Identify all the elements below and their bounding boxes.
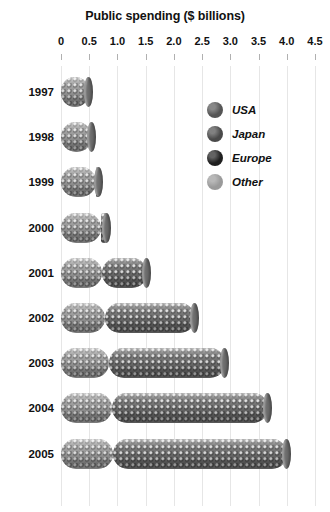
legend-swatch-usa-icon xyxy=(207,102,223,118)
bar-end-cap-2004 xyxy=(263,393,272,423)
bar-segment-1999-other xyxy=(61,167,96,197)
bar-2005 xyxy=(61,439,287,469)
bar-1997 xyxy=(61,77,89,107)
bar-segment-2003-usa xyxy=(109,348,225,378)
x-axis-tick-3.0 xyxy=(230,54,231,60)
bar-segment-2001-usa xyxy=(102,258,147,288)
legend-label-other: Other xyxy=(232,176,263,188)
y-axis-label-2002: 2002 xyxy=(0,312,54,324)
legend-swatch-other-icon xyxy=(207,174,223,190)
gridline-4.5 xyxy=(315,66,316,506)
chart-container: Public spending ($ billions) 00.51.01.52… xyxy=(0,0,330,512)
x-axis-label-4.5: 4.5 xyxy=(307,35,322,47)
x-axis-tick-0 xyxy=(61,54,62,60)
x-axis-label-0.5: 0.5 xyxy=(82,35,97,47)
x-axis-tick-1.0 xyxy=(117,54,118,60)
x-axis-label-0: 0 xyxy=(58,35,64,47)
bar-segment-2003-other xyxy=(61,348,109,378)
y-axis-label-2000: 2000 xyxy=(0,222,54,234)
x-axis-tick-2.0 xyxy=(174,54,175,60)
x-axis-label-3.5: 3.5 xyxy=(251,35,266,47)
legend-item-japan: Japan xyxy=(207,122,272,146)
bar-end-cap-1999 xyxy=(94,167,103,197)
y-axis-label-1999: 1999 xyxy=(0,176,54,188)
x-axis-label-2.5: 2.5 xyxy=(194,35,209,47)
y-axis-label-1998: 1998 xyxy=(0,131,54,143)
legend-swatch-japan-icon xyxy=(207,126,223,142)
bar-end-cap-1998 xyxy=(87,122,96,152)
bar-2002 xyxy=(61,303,195,333)
bar-end-cap-2000 xyxy=(102,213,111,243)
bar-2004 xyxy=(61,393,268,423)
legend-label-japan: Japan xyxy=(232,128,265,140)
bar-segment-2001-other xyxy=(61,258,102,288)
bar-1999 xyxy=(61,167,99,197)
x-axis-tick-4.5 xyxy=(315,54,316,60)
bar-segment-2002-other xyxy=(61,303,105,333)
x-axis-tick-3.5 xyxy=(259,54,260,60)
bar-segment-2002-usa xyxy=(105,303,195,333)
x-axis-label-1.5: 1.5 xyxy=(138,35,153,47)
x-axis-tick-0.5 xyxy=(89,54,90,60)
x-axis-tick-2.5 xyxy=(202,54,203,60)
bar-end-cap-2005 xyxy=(282,439,291,469)
bar-segment-2004-other xyxy=(61,393,112,423)
y-axis-label-2004: 2004 xyxy=(0,402,54,414)
y-axis-label-2003: 2003 xyxy=(0,357,54,369)
legend-item-usa: USA xyxy=(207,98,272,122)
bar-2003 xyxy=(61,348,225,378)
chart-legend: USAJapanEuropeOther xyxy=(207,98,272,194)
bar-segment-2000-other xyxy=(61,213,101,243)
bar-end-cap-2003 xyxy=(220,348,229,378)
x-axis-label-4.0: 4.0 xyxy=(279,35,294,47)
legend-item-europe: Europe xyxy=(207,146,272,170)
bar-1998 xyxy=(61,122,92,152)
bar-end-cap-2001 xyxy=(142,258,151,288)
legend-label-europe: Europe xyxy=(232,152,272,164)
x-axis-tick-4.0 xyxy=(287,54,288,60)
bar-2000 xyxy=(61,213,107,243)
bar-segment-2005-usa xyxy=(113,439,286,469)
x-axis-label-3.0: 3.0 xyxy=(223,35,238,47)
x-axis-label-1.0: 1.0 xyxy=(110,35,125,47)
y-axis-label-1997: 1997 xyxy=(0,86,54,98)
legend-label-usa: USA xyxy=(232,104,256,116)
bar-end-cap-2002 xyxy=(190,303,199,333)
x-axis-tick-1.5 xyxy=(146,54,147,60)
legend-swatch-europe-icon xyxy=(207,150,223,166)
y-axis-label-2005: 2005 xyxy=(0,448,54,460)
bar-end-cap-1997 xyxy=(84,77,93,107)
bar-2001 xyxy=(61,258,147,288)
bar-segment-2005-other xyxy=(61,439,113,469)
legend-item-other: Other xyxy=(207,170,272,194)
plot-area: 00.51.01.52.02.53.03.54.04.5 xyxy=(61,66,315,506)
y-axis-label-2001: 2001 xyxy=(0,267,54,279)
x-axis-label-2.0: 2.0 xyxy=(166,35,181,47)
bar-segment-2004-usa xyxy=(112,393,268,423)
chart-title: Public spending ($ billions) xyxy=(0,9,330,23)
